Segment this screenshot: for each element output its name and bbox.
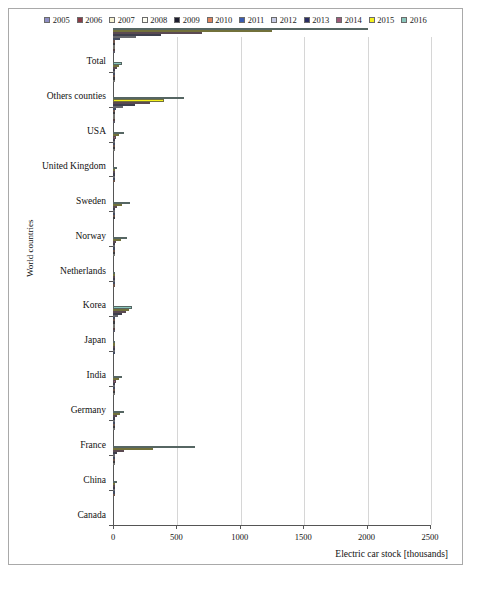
category-label-netherlands: Netherlands — [9, 266, 106, 276]
bar-group — [113, 97, 430, 123]
legend-item-2008[interactable]: 2008 — [142, 15, 168, 25]
bar-group — [113, 341, 430, 367]
legend-label: 2014 — [345, 15, 362, 25]
legend-swatch-icon-2014 — [336, 17, 342, 23]
legend-swatch-icon-2012 — [271, 17, 277, 23]
legend-label: 2006 — [85, 15, 102, 25]
category-label-usa: USA — [9, 126, 106, 136]
bar-2009 — [113, 217, 115, 219]
bar-2005 — [113, 121, 115, 123]
legend-swatch-icon-2015 — [369, 17, 375, 23]
legend-item-2013[interactable]: 2013 — [304, 15, 330, 25]
category-label-china: China — [9, 475, 106, 485]
legend-item-2010[interactable]: 2010 — [207, 15, 233, 25]
legend-swatch-icon-2010 — [207, 17, 213, 23]
bar-2005 — [113, 330, 115, 332]
bar-2010 — [113, 180, 115, 182]
x-tick-label: 2500 — [422, 532, 439, 542]
legend-swatch-icon-2005 — [44, 17, 50, 23]
bar-group — [113, 62, 430, 88]
legend-item-2012[interactable]: 2012 — [271, 15, 297, 25]
legend-label: 2007 — [118, 15, 135, 25]
category-label-france: France — [9, 440, 106, 450]
x-tick-label: 0 — [111, 532, 115, 542]
bar-2011 — [113, 352, 115, 354]
category-label-canada: Canada — [9, 510, 106, 520]
legend-item-2015[interactable]: 2015 — [369, 15, 395, 25]
legend-label: 2016 — [410, 15, 427, 25]
category-label-korea: Korea — [9, 300, 106, 310]
bar-2008 — [113, 80, 115, 82]
legend-item-2005[interactable]: 2005 — [44, 15, 70, 25]
legend-label: 2015 — [377, 15, 394, 25]
legend-swatch-icon-2011 — [239, 17, 245, 23]
bar-group — [113, 272, 430, 298]
x-tick — [113, 525, 114, 529]
category-label-total: Total — [9, 56, 106, 66]
category-label-sweden: Sweden — [9, 196, 106, 206]
legend-swatch-icon-2006 — [77, 17, 83, 23]
x-axis-title: Electric car stock [thousands] — [335, 549, 448, 559]
x-tick-label: 1500 — [295, 532, 312, 542]
bar-group — [113, 28, 430, 54]
bar-group — [113, 306, 430, 332]
x-tick — [303, 525, 304, 529]
x-tick-label: 500 — [170, 532, 183, 542]
category-label-united-kingdom: United Kingdom — [9, 161, 106, 171]
legend-item-2016[interactable]: 2016 — [401, 15, 427, 25]
legend-label: 2013 — [312, 15, 329, 25]
x-gridline — [431, 37, 432, 525]
category-label-others-counties: Others counties — [9, 91, 106, 101]
bar-2008 — [113, 463, 115, 465]
bar-2005 — [113, 51, 115, 53]
x-tick — [430, 525, 431, 529]
x-tick-label: 1000 — [231, 532, 248, 542]
legend-swatch-icon-2009 — [174, 17, 180, 23]
bar-group — [113, 202, 430, 228]
legend-swatch-icon-2007 — [109, 17, 115, 23]
x-axis-line — [113, 525, 431, 526]
legend-label: 2008 — [150, 15, 167, 25]
legend-label: 2009 — [183, 15, 200, 25]
chart-legend: 2005200620072008200920102011201220132014… — [9, 15, 462, 25]
legend-item-2007[interactable]: 2007 — [109, 15, 135, 25]
bar-group — [113, 376, 430, 402]
bar-group — [113, 446, 430, 472]
x-tick — [367, 525, 368, 529]
y-tick — [109, 525, 113, 526]
legend-label: 2010 — [215, 15, 232, 25]
bar-2010 — [113, 494, 115, 496]
bar-group — [113, 411, 430, 437]
bar-2008 — [113, 149, 115, 151]
x-tick — [240, 525, 241, 529]
legend-label: 2005 — [53, 15, 70, 25]
x-tick-label: 2000 — [358, 532, 375, 542]
bar-group — [113, 132, 430, 158]
legend-item-2011[interactable]: 2011 — [239, 15, 264, 25]
legend-item-2014[interactable]: 2014 — [336, 15, 362, 25]
bar-2008 — [113, 428, 115, 430]
category-label-india: India — [9, 370, 106, 380]
legend-label: 2011 — [248, 15, 265, 25]
bar-group — [113, 481, 430, 507]
bar-2008 — [113, 254, 115, 256]
bar-2008 — [113, 393, 115, 395]
legend-swatch-icon-2013 — [304, 17, 310, 23]
legend-item-2006[interactable]: 2006 — [77, 15, 103, 25]
bar-group — [113, 167, 430, 193]
bar-2010 — [113, 284, 115, 286]
x-tick — [176, 525, 177, 529]
legend-item-2009[interactable]: 2009 — [174, 15, 200, 25]
bar-group — [113, 237, 430, 263]
legend-swatch-icon-2008 — [142, 17, 148, 23]
category-label-norway: Norway — [9, 231, 106, 241]
category-label-japan: Japan — [9, 335, 106, 345]
legend-swatch-icon-2016 — [401, 17, 407, 23]
category-label-germany: Germany — [9, 405, 106, 415]
legend-label: 2012 — [280, 15, 297, 25]
chart-figure: 2005200620072008200920102011201220132014… — [8, 8, 463, 565]
